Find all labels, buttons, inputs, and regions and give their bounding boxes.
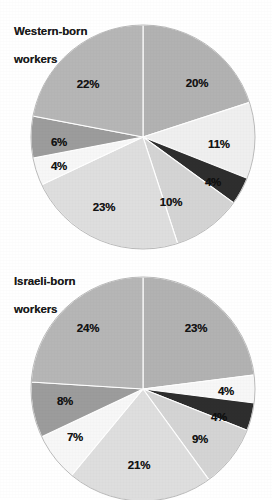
pie-label-western-7: 22% (77, 78, 99, 90)
pie-label-western-1: 11% (208, 138, 230, 150)
pie-label-israeli-5: 7% (67, 431, 83, 443)
chart-title-western-born: Western-born workers (14, 10, 87, 66)
chart-title-line-2: workers (14, 303, 57, 315)
pie-label-western-0: 20% (186, 77, 208, 89)
pie-label-western-2: 4% (205, 176, 221, 188)
chart-title-line-1: Western-born (14, 25, 87, 37)
pie-chart-western-born: Western-born workers 20% 11% 4% 10% 23% (0, 0, 272, 250)
pie-label-israeli-2: 4% (211, 411, 227, 423)
pie-label-western-5: 4% (51, 160, 67, 172)
pie-chart-israeli-born: Israeli-born workers 23% 4% 4% 9% 21% (0, 250, 272, 498)
pie-label-western-6: 6% (51, 136, 67, 148)
pie-label-western-4: 23% (93, 201, 115, 213)
chart-title-israeli-born: Israeli-born workers (14, 260, 75, 316)
pie-label-israeli-4: 21% (128, 459, 150, 471)
chart-title-line-2: workers (14, 53, 57, 65)
pie-label-israeli-0: 23% (185, 322, 207, 334)
pie-label-israeli-1: 4% (218, 385, 234, 397)
pie-label-israeli-6: 8% (57, 395, 73, 407)
pie-label-western-3: 10% (160, 196, 182, 208)
pie-label-israeli-3: 9% (192, 433, 208, 445)
pie-label-israeli-7: 24% (77, 322, 99, 334)
chart-title-line-1: Israeli-born (14, 275, 75, 287)
